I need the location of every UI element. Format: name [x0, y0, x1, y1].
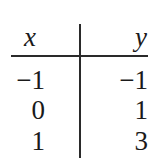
table-row-1-x: 0 — [32, 97, 46, 124]
table-row-0-x: −1 — [16, 67, 45, 94]
table-row-2-y: 3 — [135, 128, 149, 155]
column-divider — [79, 24, 81, 158]
header-y: y — [135, 24, 147, 51]
header-x: x — [24, 24, 36, 51]
table-row-1-y: 1 — [135, 97, 149, 124]
header-divider — [11, 55, 148, 57]
table-row-2-x: 1 — [32, 128, 46, 155]
table-row-0-y: −1 — [119, 67, 148, 94]
